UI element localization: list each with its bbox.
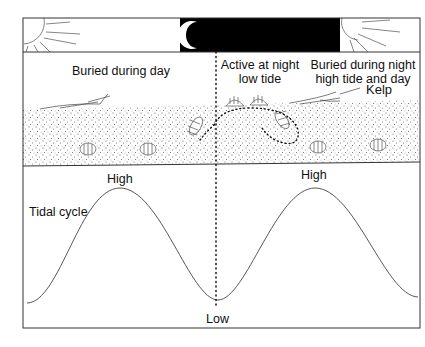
night-band	[180, 18, 340, 52]
tidal-behavior-diagram	[0, 0, 425, 347]
label-buried-during-night: Buried during night high tide and day	[308, 58, 418, 86]
label-buried-night-line2: high tide and day	[308, 72, 418, 86]
label-active-line2: low tide	[220, 72, 300, 86]
sun-icon	[24, 18, 80, 52]
label-low: Low	[206, 312, 229, 326]
label-tidal-cycle: Tidal cycle	[29, 205, 88, 219]
label-high-right: High	[301, 168, 327, 182]
label-kelp: Kelp	[366, 83, 392, 97]
label-active-line1: Active at night	[220, 58, 300, 72]
sun-icon	[342, 18, 400, 52]
label-active-at-night: Active at night low tide	[220, 58, 300, 86]
sand-layer	[23, 100, 420, 166]
sky-band	[23, 18, 420, 52]
label-high-left: High	[107, 172, 133, 186]
label-buried-during-day: Buried during day	[72, 64, 170, 78]
label-buried-night-line1: Buried during night	[308, 58, 418, 72]
